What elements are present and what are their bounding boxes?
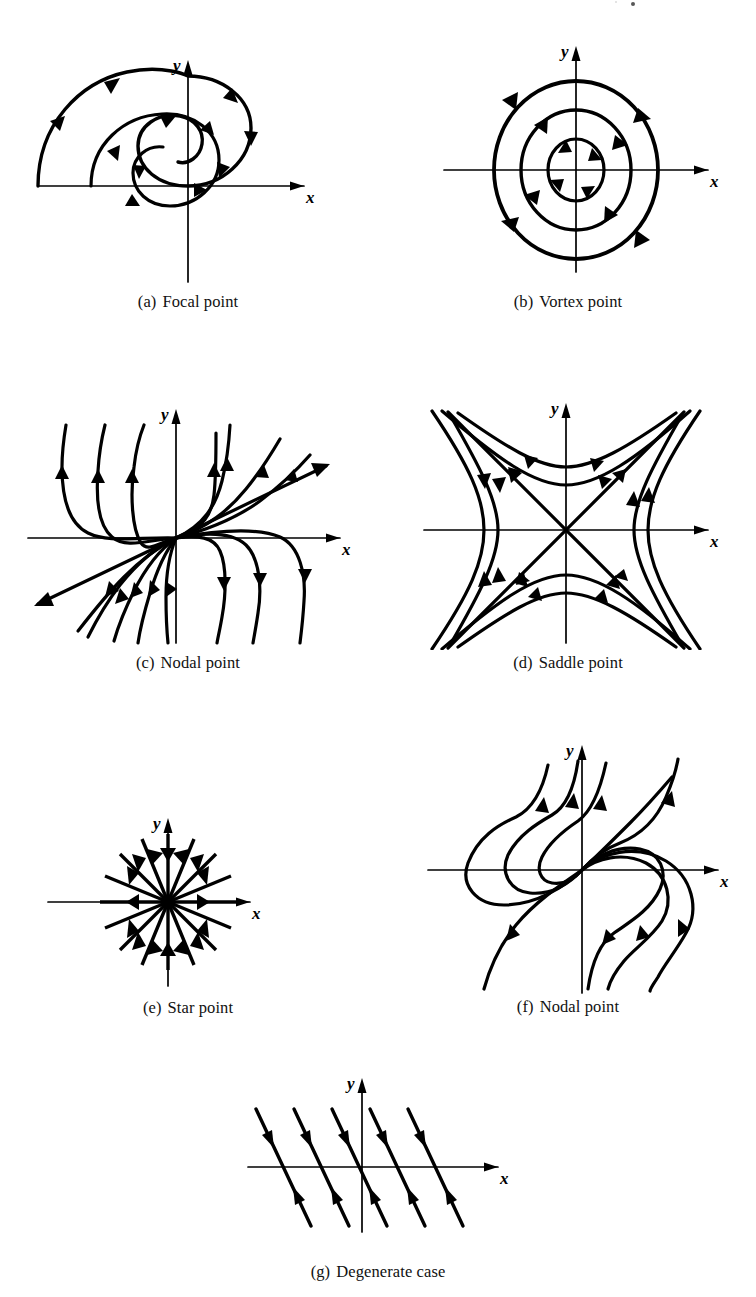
nodal-point-diagram: [8, 385, 368, 650]
panel-nodal-point-c: (c)Nodal point y x: [8, 385, 368, 685]
x-axis-label: x: [306, 188, 315, 208]
panel-c-title: Nodal point: [161, 653, 240, 672]
y-axis-arrowhead: [164, 818, 173, 833]
x-axis-arrowhead: [484, 1163, 498, 1172]
panel-a-caption: (a)Focal point: [8, 292, 368, 312]
y-axis-label: y: [566, 741, 574, 761]
y-axis-arrowhead: [572, 46, 581, 61]
trajectories-lower-left: [78, 538, 176, 643]
panel-f-caption: (f)Nodal point: [388, 997, 748, 1017]
trajectory-arrowheads-lower-right: [217, 569, 312, 591]
panel-degenerate-case: (g)Degenerate case y x: [198, 1062, 558, 1297]
arrowheads-lower: [293, 1187, 457, 1205]
trajectories-upper: [466, 759, 678, 905]
panel-b-caption: (b)Vortex point: [388, 292, 748, 312]
x-axis-arrowhead: [694, 526, 708, 535]
scan-speck: [631, 2, 635, 6]
x-axis-label: x: [342, 540, 351, 560]
panel-a-label: (a): [138, 292, 157, 311]
panel-d-caption: (d)Saddle point: [388, 653, 748, 673]
panel-c-caption: (c)Nodal point: [8, 653, 368, 673]
y-axis-arrowhead: [184, 60, 193, 75]
panel-g-label: (g): [311, 1262, 331, 1281]
trajectories-lower-right: [176, 531, 304, 643]
x-axis-label: x: [710, 532, 719, 552]
arrowheads-upper: [262, 1130, 426, 1148]
panel-c-label: (c): [136, 653, 155, 672]
degenerate-case-diagram: [198, 1062, 558, 1262]
panel-d-label: (d): [513, 653, 533, 672]
trajectory-arrowheads-upper: [535, 791, 675, 813]
y-axis-label: y: [153, 814, 161, 834]
y-axis-label: y: [173, 56, 181, 76]
panel-b-title: Vortex point: [539, 292, 622, 311]
y-axis-arrowhead: [358, 1078, 367, 1093]
equilibrium-point: [161, 895, 176, 910]
phase-portrait-plate: (a)Focal point y x: [0, 0, 756, 1297]
panel-e-label: (e): [143, 998, 162, 1017]
y-axis-label: y: [551, 399, 559, 419]
trajectories-upper-left: [62, 425, 176, 547]
trajectories-upper-right: [176, 425, 310, 538]
x-axis-arrowhead: [290, 182, 304, 191]
scan-speck: [615, 1, 617, 3]
y-axis-label: y: [161, 405, 169, 425]
star-point-diagram: [8, 790, 368, 1000]
panel-f-title: Nodal point: [540, 997, 619, 1016]
panel-vortex-point: (b)Vortex point y x: [388, 20, 748, 320]
degenerate-nodal-point-diagram: [388, 725, 748, 997]
panel-f-label: (f): [517, 997, 534, 1016]
y-axis-arrowhead: [578, 745, 587, 760]
x-axis-label: x: [252, 904, 261, 924]
saddle-point-diagram: [388, 385, 748, 650]
panel-e-caption: (e)Star point: [8, 998, 368, 1018]
x-axis-label: x: [720, 872, 729, 892]
panel-g-caption: (g)Degenerate case: [198, 1262, 558, 1282]
panel-focal-point: (a)Focal point y x: [8, 20, 368, 320]
panel-g-title: Degenerate case: [336, 1262, 445, 1281]
y-axis-arrowhead: [172, 409, 181, 424]
panel-star-point: (e)Star point y x: [8, 790, 368, 1030]
y-axis-arrowhead: [562, 403, 571, 418]
hyperbola-arrowheads-bottom: [514, 573, 620, 603]
x-axis-arrowhead: [326, 534, 340, 543]
panel-d-title: Saddle point: [539, 653, 623, 672]
panel-nodal-point-f: (f)Nodal point y x: [388, 725, 748, 1025]
x-axis-arrowhead: [704, 866, 718, 875]
y-axis-label: y: [347, 1074, 355, 1094]
panel-b-label: (b): [514, 292, 534, 311]
panel-a-title: Focal point: [162, 292, 238, 311]
x-axis-label: x: [710, 172, 719, 192]
x-axis-label: x: [500, 1169, 509, 1189]
focal-point-diagram: [8, 20, 368, 290]
x-axis-arrowhead: [236, 898, 250, 907]
x-axis-arrowhead: [694, 166, 708, 175]
panel-e-title: Star point: [168, 998, 234, 1017]
y-axis-label: y: [561, 42, 569, 62]
panel-saddle-point: (d)Saddle point y x: [388, 385, 748, 685]
